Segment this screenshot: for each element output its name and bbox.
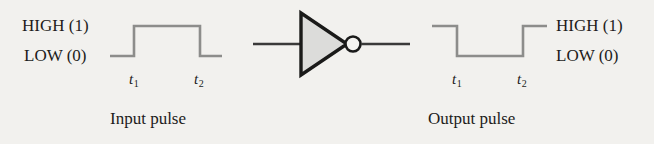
diagram-vector-layer: [0, 0, 654, 144]
inverter-triangle: [301, 13, 347, 75]
inversion-bubble: [346, 37, 361, 52]
input-pulse-waveform: [110, 26, 222, 56]
output-pulse-waveform: [432, 26, 547, 56]
inverter-pulse-figure: HIGH (1) LOW (0) HIGH (1) LOW (0) t1 t2 …: [0, 0, 654, 144]
